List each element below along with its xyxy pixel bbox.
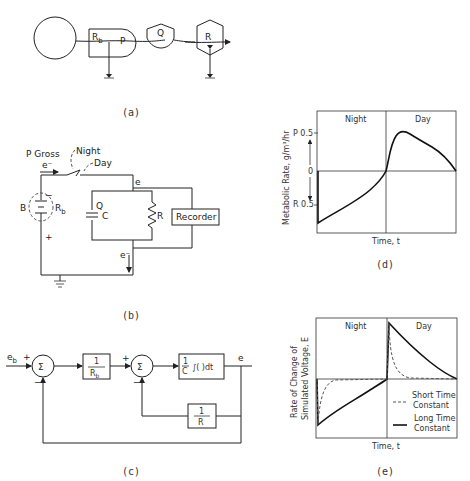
chart-e-day: Day xyxy=(416,322,432,331)
figure-canvas: Rb P Q R (a) P Gross Night Day e⁻ xyxy=(0,0,470,481)
rc-loop xyxy=(92,191,152,240)
sum2-minus: − xyxy=(133,377,141,387)
fb-denominator: R xyxy=(198,418,204,427)
c-label: C xyxy=(102,211,108,221)
source-circle xyxy=(34,17,76,59)
chart-e-ylabel-2: Simulated Voltage, E xyxy=(301,337,310,420)
battery-minus: − xyxy=(45,190,53,200)
eb-label: eb xyxy=(7,352,18,365)
q-label: Q xyxy=(157,28,164,38)
r-label: R xyxy=(157,211,163,221)
p-gross-label: P Gross xyxy=(26,149,60,159)
integral-expression: ∫( )dt xyxy=(192,363,213,372)
panel-d-metabolic-chart: Night Day P 0.5 0 R 0.5 Metabolic Rate, … xyxy=(282,111,456,270)
hexagon-node-icon xyxy=(207,45,213,49)
tick-zero: 0 xyxy=(308,167,313,176)
sigma-1: Σ xyxy=(38,362,44,372)
sum2-plus: + xyxy=(122,353,130,363)
chart-e-xlabel: Time, t xyxy=(371,442,400,451)
tick-r: R 0.5 xyxy=(293,200,314,209)
caption-c: (c) xyxy=(122,466,140,477)
chart-d-night: Night xyxy=(345,115,367,124)
day-label: Day xyxy=(94,158,112,168)
flow-line-2 xyxy=(174,40,195,42)
day-pointer xyxy=(84,163,93,171)
night-label: Night xyxy=(76,146,101,156)
panel-b-circuit: P Gross Night Day e⁻ B Rb − + e xyxy=(20,146,219,321)
chart-e-night: Night xyxy=(345,322,367,331)
chart-d-ylabel: Metabolic Rate, g/m³/hr xyxy=(282,130,291,225)
sum1-minus: − xyxy=(34,377,42,387)
chart-d-day: Day xyxy=(415,115,431,124)
cap-gap xyxy=(88,210,98,220)
q-label: Q xyxy=(96,201,103,211)
caption-b: (b) xyxy=(122,310,140,321)
caption-d: (d) xyxy=(376,259,394,270)
legend-long-line2: Constant xyxy=(414,424,450,433)
sigma-2: Σ xyxy=(137,362,143,372)
chart-d-xlabel: Time, t xyxy=(371,237,400,246)
caption-a: (a) xyxy=(122,107,140,118)
panel-a-energy-diagram: Rb P Q R (a) xyxy=(34,17,230,118)
night-pointer xyxy=(71,150,75,169)
recorder-label: Recorder xyxy=(176,212,217,222)
fb-numerator: 1 xyxy=(199,407,204,416)
gain1-denominator: Rb xyxy=(90,369,100,379)
ground-icon xyxy=(205,74,215,78)
r-label: R xyxy=(205,32,211,42)
metabolic-rate-curve xyxy=(318,132,456,223)
rb-label: Rb xyxy=(55,203,66,216)
node-e-label: e xyxy=(135,177,141,187)
chart-d-frame xyxy=(317,111,456,233)
electron-label-top: e⁻ xyxy=(42,160,53,170)
gain1-numerator: 1 xyxy=(94,357,99,366)
battery-label: B xyxy=(20,203,26,213)
int-numerator: 1 xyxy=(183,357,188,366)
caption-e: (e) xyxy=(376,466,394,477)
battery-plus: + xyxy=(45,232,53,242)
chart-e-ylabel-1: Rate of Change of xyxy=(290,346,299,418)
panel-e-voltage-chart: Night Day Rate of Change of Simulated Vo… xyxy=(290,318,457,477)
panel-c-block-diagram: eb + Σ − 1 Rb + Σ − 1 C ∫( )dt e 1 R xyxy=(6,352,252,477)
ground-icon xyxy=(54,281,66,287)
int-denominator: C xyxy=(182,367,188,376)
legend-short-line2: Constant xyxy=(413,401,449,410)
rb-label: Rb xyxy=(92,32,103,45)
sum1-plus: + xyxy=(23,352,31,362)
tick-p: P 0.5 xyxy=(293,129,313,138)
output-e-label: e xyxy=(238,353,244,363)
legend-long-line1: Long Time xyxy=(414,414,456,423)
legend-short-line1: Short Time xyxy=(412,391,456,400)
ground-icon xyxy=(104,74,114,78)
p-label: P xyxy=(120,36,126,46)
